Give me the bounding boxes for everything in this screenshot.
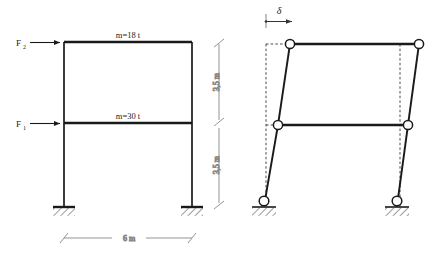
hinge-roof-left <box>285 39 294 48</box>
fixed-support-right <box>181 207 203 216</box>
deformed-right-column-upper <box>408 44 419 125</box>
frame-diagram: m=18 t m=30 t F 2 F 1 3,5 m 3,5 m 6 m <box>0 0 435 256</box>
force-F1-subscript: 1 <box>23 125 26 131</box>
force-F2-base: F <box>16 38 21 48</box>
force-F2-subscript: 2 <box>23 44 26 50</box>
delta-label: δ <box>277 5 282 16</box>
span-dim-label: 6 m <box>123 234 136 243</box>
first-floor-mass-label: m=30 t <box>116 111 141 121</box>
span-dimension: 6 m <box>60 231 196 244</box>
delta-origin-dot <box>265 20 268 23</box>
force-F1-base: F <box>16 119 21 129</box>
pinned-support-left <box>252 196 276 216</box>
vertical-dimensions: 3,5 m 3,5 m <box>212 39 224 209</box>
deformed-left-column-upper <box>278 44 290 125</box>
pin-circle-left <box>259 196 269 206</box>
delta-displacement: δ <box>265 5 292 28</box>
deformed-right-column-lower <box>397 125 408 206</box>
roof-mass-label: m=18 t <box>116 30 141 40</box>
lower-storey-dim-label: 3,5 m <box>212 155 221 174</box>
upper-storey-dim-label: 3,5 m <box>212 72 221 91</box>
pin-circle-right <box>392 196 402 206</box>
pinned-support-right <box>385 196 409 216</box>
force-F2: F 2 <box>16 38 60 50</box>
force-F1: F 1 <box>16 119 60 131</box>
deformed-frame-group: δ <box>252 5 424 216</box>
undeformed-frame-group: m=18 t m=30 t F 2 F 1 <box>16 30 203 216</box>
deformed-left-column-lower <box>264 125 278 206</box>
hinge-floor-right <box>403 120 412 129</box>
hinge-roof-right <box>414 39 423 48</box>
hinge-floor-left <box>273 120 282 129</box>
diagram-canvas: m=18 t m=30 t F 2 F 1 3,5 m 3,5 m 6 m <box>0 0 435 256</box>
fixed-support-left <box>53 207 75 216</box>
